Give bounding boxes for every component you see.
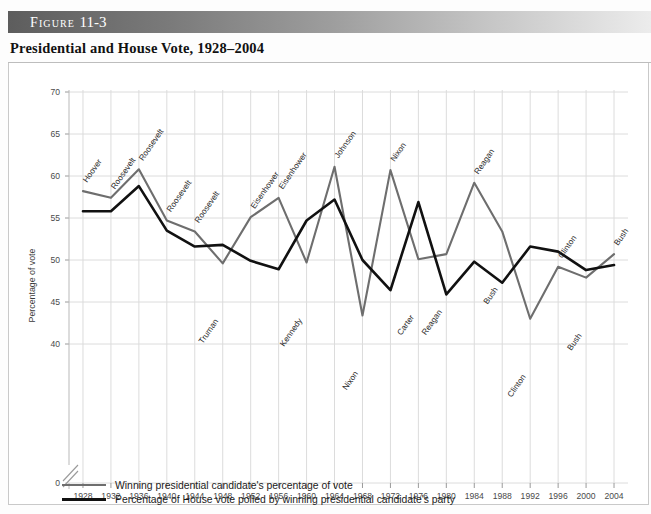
figure-header-band: Figure 11-3	[8, 11, 651, 33]
data-point-label: Nixon	[341, 369, 361, 392]
data-point-label: Clinton	[506, 372, 528, 398]
chart-legend: Winning presidential candidate's percent…	[62, 478, 455, 506]
figure-band-prefix: Figure	[30, 15, 75, 30]
data-point-label: Carter	[396, 313, 417, 337]
y-axis-title: Percentage of vote	[27, 248, 37, 322]
x-tick-label: 1996	[549, 491, 568, 501]
data-point-label: Reagan	[473, 147, 497, 176]
data-point-label: Bush	[612, 226, 630, 247]
line-chart: 4045505560657001928193219361940194419481…	[9, 63, 648, 503]
data-point-label: Bush	[482, 285, 500, 306]
legend-item-pres: Winning presidential candidate's percent…	[62, 478, 455, 492]
legend-label-house: Percentage of House vote polled by winni…	[115, 494, 455, 505]
y-tick-label: 50	[50, 255, 60, 265]
data-point-label: Roosevelt	[137, 127, 166, 163]
x-tick-label: 1984	[465, 491, 484, 501]
series-line-pres	[83, 167, 614, 319]
x-tick-label: 1988	[493, 491, 512, 501]
data-point-label: Reagan	[420, 308, 444, 337]
x-tick-label: 1992	[521, 491, 540, 501]
page-title: Presidential and House Vote, 1928–2004	[10, 40, 264, 57]
legend-item-house: Percentage of House vote polled by winni…	[62, 492, 455, 506]
y-tick-label: 60	[50, 171, 60, 181]
y-tick-label: 40	[50, 339, 60, 349]
y-tick-label: 70	[50, 87, 60, 97]
figure-band-label: Figure 11-3	[30, 14, 107, 31]
data-point-label: Nixon	[389, 141, 409, 164]
data-point-label: Clinton	[556, 233, 578, 259]
data-point-label: Bush	[566, 331, 584, 352]
figure-page: Figure 11-3 Presidential and House Vote,…	[0, 0, 651, 514]
y-tick-label-zero: 0	[55, 478, 60, 488]
y-tick-label: 65	[50, 129, 60, 139]
chart-container: 4045505560657001928193219361940194419481…	[8, 63, 649, 505]
legend-label-pres: Winning presidential candidate's percent…	[115, 480, 353, 491]
figure-band-number: 11-3	[80, 14, 107, 30]
data-point-label: Eisenhower	[277, 151, 309, 191]
data-point-label: Kennedy	[278, 316, 304, 348]
legend-swatch-house-icon	[62, 498, 106, 501]
legend-swatch-pres-icon	[62, 484, 106, 486]
data-point-label: Roosevelt	[193, 189, 222, 225]
y-tick-label: 55	[50, 213, 60, 223]
y-tick-label: 45	[50, 297, 60, 307]
data-point-label: Truman	[197, 317, 221, 345]
data-point-label: Roosevelt	[165, 178, 194, 214]
x-tick-label: 2004	[604, 491, 623, 501]
x-tick-label: 2000	[577, 491, 596, 501]
data-point-label: Hoover	[81, 157, 104, 184]
